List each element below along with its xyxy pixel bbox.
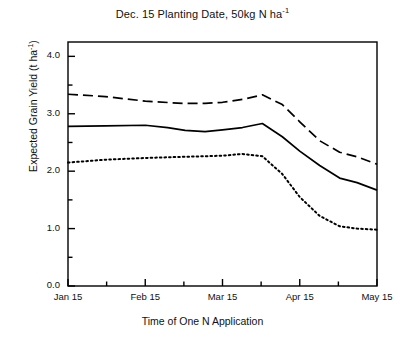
dotted-series [68, 154, 377, 230]
x-tick-label: Apr 15 [277, 291, 323, 302]
plot-area [0, 0, 405, 339]
solid-series [68, 124, 377, 191]
axes-frame [68, 42, 377, 286]
x-axis-ticks [68, 279, 377, 286]
x-tick-label: May 15 [354, 291, 400, 302]
x-tick-label: Mar 15 [200, 291, 246, 302]
y-axis-title-text: Expected Grain Yield (t ha [27, 50, 39, 172]
y-axis-title: Expected Grain Yield (t ha-1) [27, 1, 39, 211]
x-tick-label: Jan 15 [45, 291, 91, 302]
y-axis-ticks [68, 56, 75, 286]
data-series-layer [68, 94, 377, 230]
y-tick-label: 0.0 [32, 279, 60, 290]
y-axis-title-tail: ) [27, 40, 39, 44]
x-axis-title: Time of One N Application [0, 315, 405, 327]
y-axis-title-superscript: -1 [27, 44, 34, 50]
chart-figure: Dec. 15 Planting Date, 50kg N ha-1 0.01.… [0, 0, 405, 339]
x-tick-label: Feb 15 [122, 291, 168, 302]
y-tick-label: 1.0 [32, 222, 60, 233]
